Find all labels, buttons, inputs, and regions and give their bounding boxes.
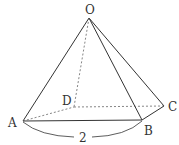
vertex-label-D: D xyxy=(62,94,72,108)
edge-DC-hidden xyxy=(74,106,164,107)
dimension-arc-left xyxy=(23,122,74,137)
vertex-label-B: B xyxy=(144,124,153,138)
edge-AB xyxy=(23,120,142,121)
edge-OD-hidden xyxy=(74,18,89,107)
edge-OA xyxy=(23,18,89,121)
pyramid-diagram: O A B C D 2 xyxy=(0,0,179,145)
edge-BC xyxy=(142,106,164,120)
vertex-label-O: O xyxy=(85,3,95,17)
vertex-label-C: C xyxy=(168,100,177,114)
edge-OC xyxy=(89,18,164,106)
edge-OB xyxy=(89,18,142,120)
dimension-arc-right xyxy=(92,121,142,137)
vertex-label-A: A xyxy=(7,116,17,130)
dimension-label: 2 xyxy=(79,131,87,145)
